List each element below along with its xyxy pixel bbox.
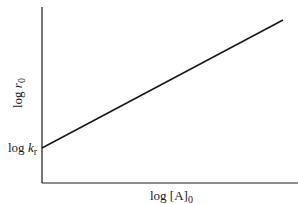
chart-canvas: log [A]0 log r0 log kr [0,0,298,204]
y-axis-label: log r0 [10,78,27,108]
intercept-label: log kr [8,140,38,157]
x-axis-label: log [A]0 [150,188,193,204]
data-line [42,20,283,148]
